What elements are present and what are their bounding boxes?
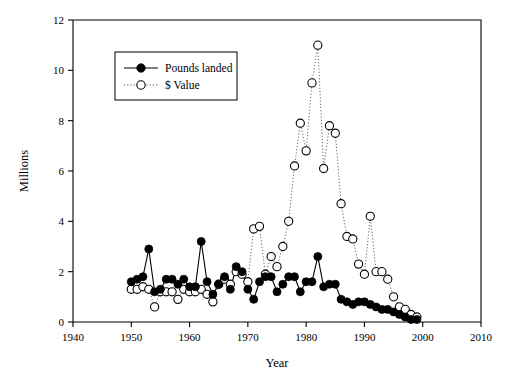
y-tick-label: 2 xyxy=(59,266,65,278)
y-tick-label: 4 xyxy=(59,215,65,227)
data-point-pounds-landed xyxy=(244,285,252,293)
x-tick-label: 1940 xyxy=(62,331,85,343)
legend: Pounds landed $ Value xyxy=(115,52,237,100)
y-tick-label: 0 xyxy=(59,316,65,328)
data-point-dollar-value xyxy=(355,260,363,268)
data-point-pounds-landed xyxy=(145,245,153,253)
data-point-dollar-value xyxy=(255,222,263,230)
legend-box xyxy=(115,52,237,100)
data-point-dollar-value xyxy=(279,242,287,250)
data-point-pounds-landed xyxy=(191,283,199,291)
legend-label-pounds-landed: Pounds landed xyxy=(165,62,233,74)
data-point-dollar-value xyxy=(244,278,252,286)
data-point-dollar-value xyxy=(325,122,333,130)
x-tick-label: 2000 xyxy=(412,331,435,343)
data-point-dollar-value xyxy=(366,212,374,220)
x-axis-title: Year xyxy=(265,356,289,370)
filled-circle-icon xyxy=(137,64,145,72)
data-point-pounds-landed xyxy=(296,288,304,296)
data-point-dollar-value xyxy=(174,295,182,303)
data-point-pounds-landed xyxy=(215,280,223,288)
data-point-pounds-landed xyxy=(273,288,281,296)
data-point-dollar-value xyxy=(314,41,322,49)
x-tick-label: 1950 xyxy=(120,331,143,343)
data-point-dollar-value xyxy=(337,200,345,208)
x-tick-label: 1960 xyxy=(179,331,202,343)
data-point-dollar-value xyxy=(209,298,217,306)
data-point-pounds-landed xyxy=(250,295,258,303)
data-point-dollar-value xyxy=(290,162,298,170)
data-point-dollar-value xyxy=(285,217,293,225)
data-point-pounds-landed xyxy=(279,280,287,288)
chart-background xyxy=(0,0,517,387)
y-tick-label: 10 xyxy=(53,64,65,76)
y-tick-label: 12 xyxy=(53,14,64,26)
legend-entry-pounds-landed: Pounds landed xyxy=(124,62,233,74)
data-point-dollar-value xyxy=(320,164,328,172)
chart-container: 024681012 194019501960197019801990200020… xyxy=(0,0,517,387)
data-point-pounds-landed xyxy=(209,290,217,298)
data-point-dollar-value xyxy=(384,275,392,283)
data-point-dollar-value xyxy=(168,288,176,296)
data-point-dollar-value xyxy=(378,268,386,276)
data-point-pounds-landed xyxy=(139,273,147,281)
data-point-dollar-value xyxy=(302,147,310,155)
data-point-pounds-landed xyxy=(180,275,188,283)
y-axis-title: Millions xyxy=(17,150,31,193)
x-tick-label: 1970 xyxy=(237,331,260,343)
y-tick-label: 6 xyxy=(59,165,65,177)
data-point-pounds-landed xyxy=(226,285,234,293)
data-point-dollar-value xyxy=(308,79,316,87)
legend-label-dollar-value: $ Value xyxy=(165,79,200,91)
data-point-pounds-landed xyxy=(203,278,211,286)
data-point-pounds-landed xyxy=(413,315,421,323)
data-point-pounds-landed xyxy=(221,273,229,281)
data-point-dollar-value xyxy=(389,293,397,301)
y-tick-label: 8 xyxy=(59,115,65,127)
data-point-pounds-landed xyxy=(197,237,205,245)
data-point-dollar-value xyxy=(273,263,281,271)
x-tick-label: 1980 xyxy=(295,331,318,343)
open-circle-icon xyxy=(137,81,145,89)
data-point-pounds-landed xyxy=(331,280,339,288)
fishery-landings-chart: 024681012 194019501960197019801990200020… xyxy=(0,0,517,387)
data-point-pounds-landed xyxy=(290,273,298,281)
data-point-dollar-value xyxy=(267,252,275,260)
data-point-dollar-value xyxy=(360,270,368,278)
data-point-pounds-landed xyxy=(238,268,246,276)
data-point-dollar-value xyxy=(331,129,339,137)
x-tick-label: 2010 xyxy=(470,331,493,343)
data-point-pounds-landed xyxy=(267,273,275,281)
data-point-pounds-landed xyxy=(156,285,164,293)
data-point-dollar-value xyxy=(296,119,304,127)
x-tick-label: 1990 xyxy=(353,331,376,343)
data-point-pounds-landed xyxy=(314,253,322,261)
data-point-dollar-value xyxy=(151,303,159,311)
data-point-pounds-landed xyxy=(308,278,316,286)
data-point-dollar-value xyxy=(349,235,357,243)
